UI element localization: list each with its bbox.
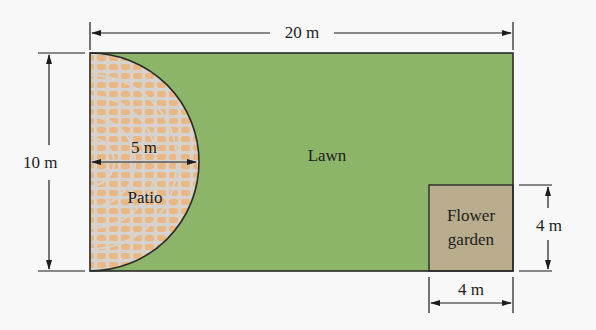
lawn-label: Lawn <box>308 147 347 164</box>
flower-garden-label-line1: Flower <box>447 207 495 224</box>
garden-width-label: 4 m <box>458 281 484 298</box>
height-label: 10 m <box>23 154 57 171</box>
patio-radius-label: 5 m <box>131 139 157 156</box>
flower-garden-region <box>429 185 513 271</box>
flower-garden-label-line2: garden <box>448 231 494 248</box>
patio-label: Patio <box>128 189 163 206</box>
garden-diagram <box>0 0 596 330</box>
width-label: 20 m <box>285 24 319 41</box>
garden-height-label: 4 m <box>536 217 562 234</box>
